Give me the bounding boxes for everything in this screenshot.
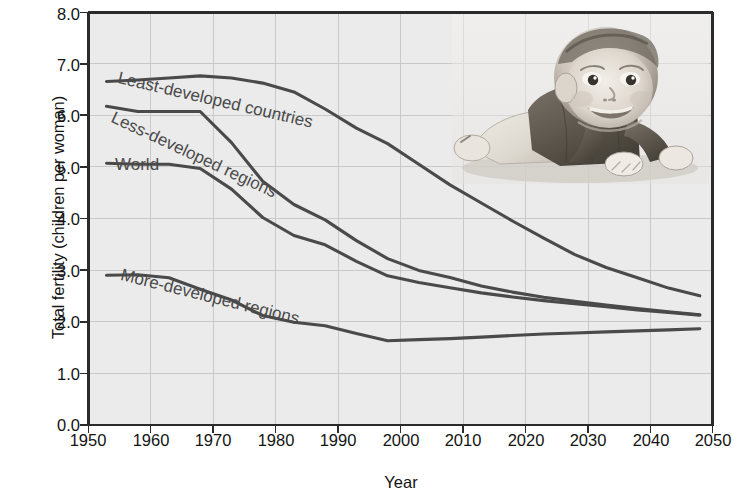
baby-photo-inset <box>452 14 709 184</box>
x-axis-ticks <box>89 425 713 433</box>
fertility-chart-figure: Total fertility (children per woman) 8.0… <box>0 0 734 504</box>
plot-area <box>0 0 734 504</box>
curve-label-world: World <box>115 155 159 175</box>
y-axis-ticks <box>80 13 88 426</box>
